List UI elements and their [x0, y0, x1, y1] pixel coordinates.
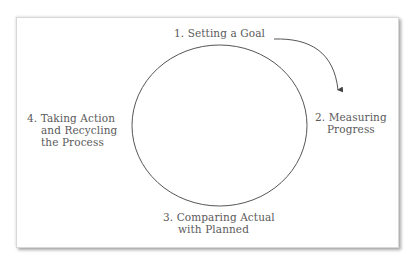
step-2-line-1: 2. Measuring	[315, 111, 387, 123]
step-1-label: 1. Setting a Goal	[174, 27, 265, 39]
arrow-goal-to-measuring	[274, 39, 338, 90]
step-2-line-2: Progress	[315, 123, 387, 135]
step-4-line-1: 4. Taking Action	[27, 112, 117, 124]
step-3-line-2: with Planned	[163, 223, 275, 235]
step-1-line-1: 1. Setting a Goal	[174, 27, 265, 39]
step-4-line-3: the Process	[27, 136, 117, 148]
cycle-circle	[132, 45, 307, 206]
step-2-label: 2. Measuring Progress	[315, 111, 387, 135]
step-3-label: 3. Comparing Actual with Planned	[163, 211, 275, 235]
step-3-line-1: 3. Comparing Actual	[163, 211, 275, 223]
step-4-label: 4. Taking Action and Recycling the Proce…	[27, 112, 117, 148]
step-4-line-2: and Recycling	[27, 124, 117, 136]
